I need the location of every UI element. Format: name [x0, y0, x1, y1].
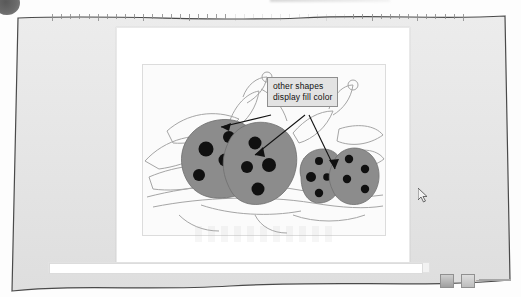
slide-canvas[interactable]: other shapes display fill color	[116, 27, 410, 269]
page-header-smudge	[270, 0, 390, 2]
large-ladybug-right-wing	[223, 122, 297, 204]
normal-view-icon[interactable]	[440, 274, 454, 288]
slide-sorter-view-icon[interactable]	[461, 274, 475, 288]
application-window: {}	[0, 12, 521, 294]
callout-line-2: display fill color	[273, 92, 332, 103]
zoom-slider-track[interactable]	[479, 279, 511, 281]
callout-line-1: other shapes	[273, 81, 332, 92]
small-ladybug-right-wing	[329, 148, 379, 205]
callout-label[interactable]: other shapes display fill color	[267, 77, 338, 107]
screenshot-root: {}	[0, 0, 521, 297]
horizontal-ruler[interactable]: {}	[52, 14, 472, 23]
horizontal-scrollbar-thumb[interactable]	[49, 263, 423, 274]
mouse-arrow-cursor	[418, 188, 429, 203]
status-bar: –	[0, 274, 521, 294]
ladybug-illustration	[143, 65, 385, 235]
horizontal-scrollbar[interactable]	[48, 262, 430, 273]
page-watermark	[195, 226, 335, 242]
inserted-picture[interactable]: other shapes display fill color	[142, 64, 386, 236]
